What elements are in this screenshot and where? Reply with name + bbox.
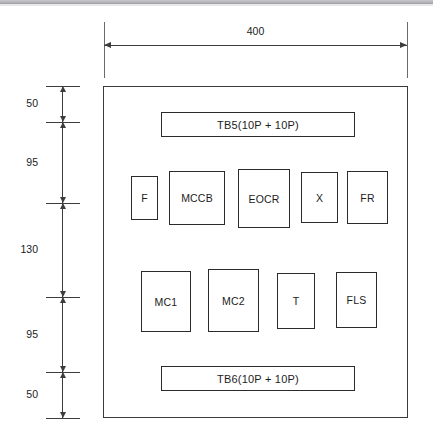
component-eocr-label: EOCR [239,193,289,205]
height-arrow-up-4 [60,372,66,378]
component-timer[interactable]: T [277,273,315,329]
height-dimension-label-3: 95 [4,328,38,340]
height-arrow-up-0 [60,86,66,92]
height-arrow-down-4 [60,412,66,418]
width-arrow-left [104,42,111,48]
terminal-block-tb5[interactable]: TB5(10P + 10P) [161,112,355,137]
width-dimension-label: 400 [104,25,407,37]
height-dimension-line-2 [62,203,63,297]
component-mccb[interactable]: MCCB [169,171,225,225]
component-relay-x[interactable]: X [301,172,338,223]
component-magnetic-contactor-2-label: MC2 [209,295,258,307]
height-arrow-up-2 [60,203,66,209]
height-dimension-line-1 [62,122,63,203]
height-arrow-up-1 [60,122,66,128]
component-relay-x-label: X [302,192,337,204]
component-magnetic-contactor-2[interactable]: MC2 [208,269,259,332]
height-dimension-label-0: 50 [4,97,38,109]
height-dimension-label-2: 130 [4,243,38,255]
component-magnetic-contactor-1-label: MC1 [142,296,190,308]
component-flicker-relay-label: FR [348,192,387,204]
component-timer-label: T [278,295,314,307]
width-dimension-line [104,45,407,46]
scan-artifact-band-soft [0,4,433,6]
height-witness-tick-5 [46,418,80,419]
component-fuse[interactable]: F [131,176,158,220]
component-float-level-switch[interactable]: FLS [336,272,377,328]
terminal-block-tb5-label: TB5(10P + 10P) [162,119,354,131]
component-magnetic-contactor-1[interactable]: MC1 [141,271,191,332]
height-dimension-label-4: 50 [4,388,38,400]
component-mccb-label: MCCB [170,192,224,204]
component-fuse-label: F [132,192,157,204]
terminal-block-tb6-label: TB6(10P + 10P) [162,373,354,385]
height-arrow-up-3 [60,297,66,303]
width-extension-line-right [407,22,408,78]
height-dimension-label-1: 95 [4,156,38,168]
component-flicker-relay[interactable]: FR [347,171,388,224]
component-float-level-switch-label: FLS [337,294,376,306]
drawing-canvas: 400 50951309550 TB5(10P + 10P)TB6(10P + … [0,0,433,436]
width-arrow-right [400,42,407,48]
terminal-block-tb6[interactable]: TB6(10P + 10P) [161,366,355,391]
height-dimension-line-3 [62,297,63,372]
component-eocr[interactable]: EOCR [238,169,290,228]
